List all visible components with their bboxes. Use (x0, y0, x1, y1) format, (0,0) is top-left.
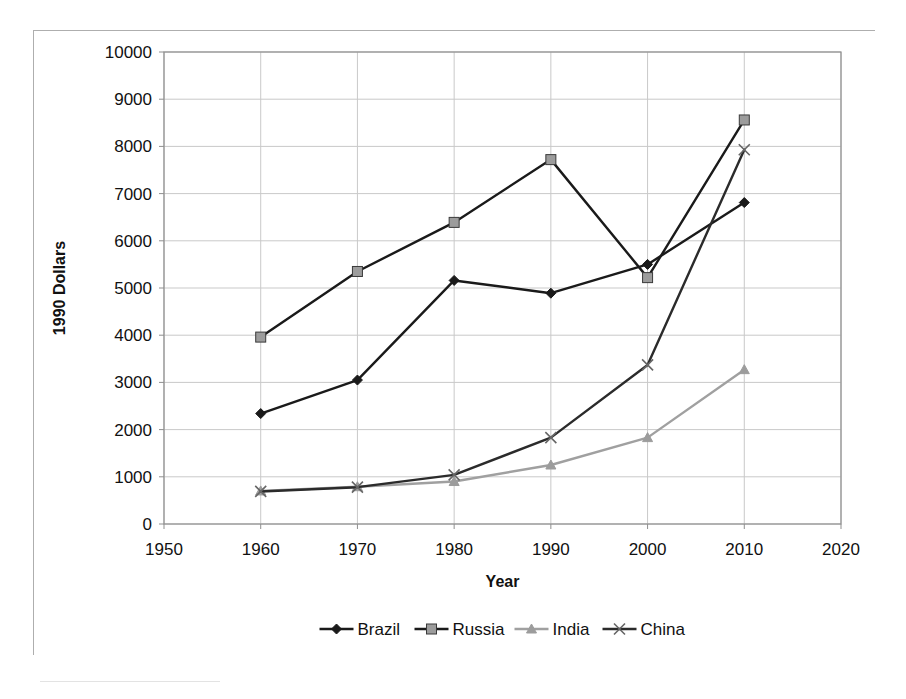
marker-square (352, 266, 362, 276)
x-tick-label: 2000 (629, 540, 667, 559)
x-tick-label: 1980 (435, 540, 473, 559)
marker-square (449, 217, 459, 227)
y-tick-label: 4000 (114, 326, 152, 345)
y-tick-label: 8000 (114, 137, 152, 156)
marker-square (427, 624, 437, 634)
marker-square (256, 332, 266, 342)
x-tick-label: 1990 (532, 540, 570, 559)
y-tick-label: 7000 (114, 185, 152, 204)
x-tick-label: 2010 (725, 540, 763, 559)
scan-artifact-line (40, 681, 220, 682)
y-tick-label: 0 (143, 515, 152, 534)
marker-square (739, 115, 749, 125)
chart-figure-frame: 0100020003000400050006000700080009000100… (33, 30, 875, 655)
marker-square (643, 273, 653, 283)
x-axis-title: Year (486, 573, 520, 590)
legend-label: Russia (453, 620, 506, 639)
legend-label: China (641, 620, 686, 639)
line-chart[interactable]: 0100020003000400050006000700080009000100… (34, 31, 876, 656)
x-tick-label: 1970 (339, 540, 377, 559)
y-tick-label: 5000 (114, 279, 152, 298)
y-tick-label: 3000 (114, 373, 152, 392)
x-tick-label: 1960 (242, 540, 280, 559)
y-axis-title: 1990 Dollars (51, 241, 68, 335)
x-tick-label: 1950 (145, 540, 183, 559)
legend-label: Brazil (358, 620, 401, 639)
y-tick-label: 10000 (105, 43, 152, 62)
y-tick-label: 9000 (114, 90, 152, 109)
y-tick-label: 2000 (114, 421, 152, 440)
legend-label: India (553, 620, 590, 639)
y-tick-label: 1000 (114, 468, 152, 487)
y-tick-label: 6000 (114, 232, 152, 251)
x-tick-label: 2020 (822, 540, 860, 559)
marker-square (546, 155, 556, 165)
